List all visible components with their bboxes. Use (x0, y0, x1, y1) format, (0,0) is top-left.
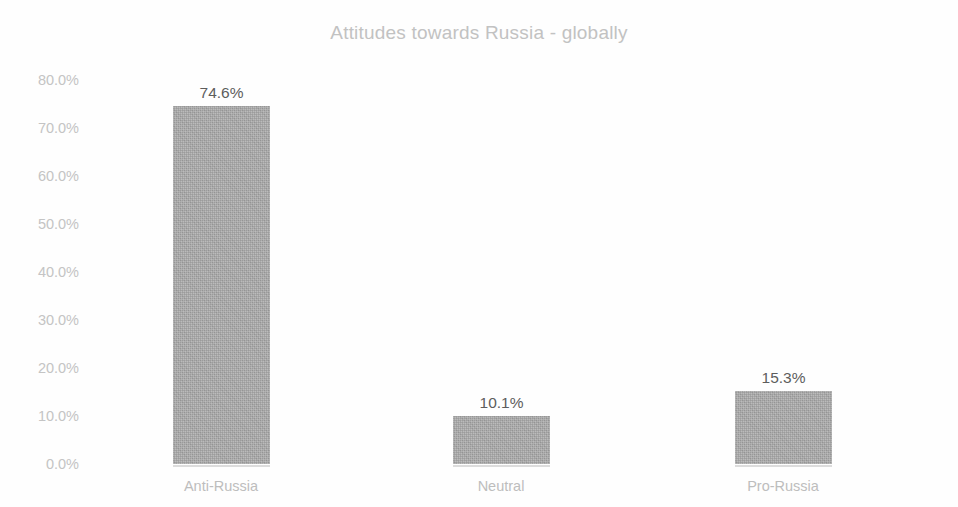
chart-title: Attitudes towards Russia - globally (0, 22, 958, 44)
bar-anti-russia[interactable] (173, 106, 270, 464)
x-tick-mark (453, 465, 550, 467)
bar-chart: Attitudes towards Russia - globally 80.0… (0, 0, 958, 507)
y-tick-label: 0.0% (46, 456, 79, 472)
x-tick-mark (173, 465, 270, 467)
x-tick-label-pro-russia: Pro-Russia (693, 478, 873, 494)
y-tick-label: 50.0% (38, 216, 79, 232)
y-tick-label: 70.0% (38, 120, 79, 136)
bar-pro-russia[interactable] (735, 391, 832, 464)
y-tick-label: 30.0% (38, 312, 79, 328)
bar-value-label-pro-russia: 15.3% (735, 369, 832, 387)
y-tick-label: 40.0% (38, 264, 79, 280)
y-tick-label: 10.0% (38, 408, 79, 424)
y-tick-label: 60.0% (38, 168, 79, 184)
bar-value-label-anti-russia: 74.6% (173, 84, 270, 102)
x-tick-mark (735, 465, 832, 467)
plot-area: 74.6% 10.1% 15.3% (92, 80, 922, 464)
x-tick-label-neutral: Neutral (411, 478, 591, 494)
y-tick-label: 20.0% (38, 360, 79, 376)
y-tick-label: 80.0% (38, 72, 79, 88)
bar-value-label-neutral: 10.1% (453, 394, 550, 412)
bar-neutral[interactable] (453, 416, 550, 464)
x-tick-label-anti-russia: Anti-Russia (131, 478, 311, 494)
y-axis: 80.0% 70.0% 60.0% 50.0% 40.0% 30.0% 20.0… (0, 0, 92, 507)
